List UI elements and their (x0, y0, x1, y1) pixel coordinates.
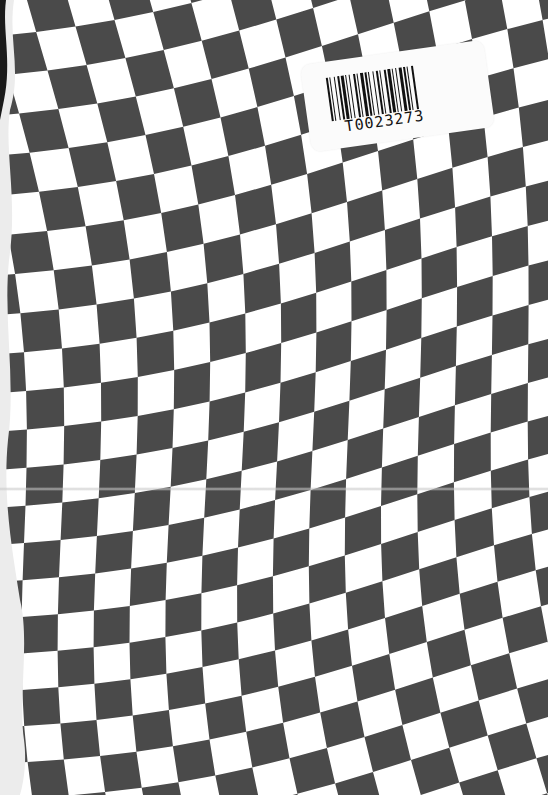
book-cover: T0023273 (0, 0, 548, 795)
fold-crease (0, 487, 548, 491)
torn-spine-edge (0, 0, 40, 795)
